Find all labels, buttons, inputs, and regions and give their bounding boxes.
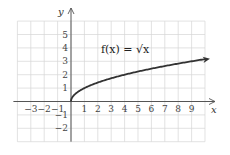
x-tick-label: 6 (149, 104, 155, 114)
grid (17, 21, 205, 142)
x-tick-label: 5 (135, 104, 141, 114)
y-tick-label: 5 (62, 30, 68, 40)
y-tick-label: 4 (62, 43, 68, 53)
sqrt-function-graph: −3−2−112345678954321−1−2 f(x) = √x x y (0, 0, 230, 155)
y-tick-label: 2 (62, 70, 68, 80)
function-label: f(x) = √x (101, 43, 150, 56)
y-tick-label: −2 (55, 123, 68, 133)
x-tick-label: 1 (82, 104, 88, 114)
y-tick-label: −1 (55, 110, 68, 120)
x-tick-label: −3 (24, 104, 38, 114)
y-tick-label: 3 (62, 56, 68, 66)
y-tick-label: 1 (62, 83, 68, 93)
x-axis-label: x (211, 104, 217, 115)
x-tick-label: 4 (122, 104, 128, 114)
y-axis-label: y (57, 6, 64, 17)
x-tick-label: −2 (38, 104, 51, 114)
x-tick-label: 2 (95, 104, 101, 114)
x-tick-label: 9 (189, 104, 195, 114)
x-tick-label: 7 (162, 104, 168, 114)
x-tick-label: 8 (175, 104, 181, 114)
x-tick-label: 3 (108, 104, 114, 114)
